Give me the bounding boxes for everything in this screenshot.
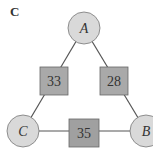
weight-box-c-b: 35 bbox=[69, 119, 99, 147]
weight-box-a-c: 33 bbox=[40, 67, 68, 95]
weight-label: 35 bbox=[77, 126, 91, 141]
node-label: C bbox=[18, 124, 28, 139]
weight-label: 33 bbox=[47, 74, 61, 89]
node-label: B bbox=[142, 124, 151, 139]
weight-box-a-b: 28 bbox=[100, 67, 128, 95]
node-b: B bbox=[130, 115, 153, 147]
weight-label: 28 bbox=[107, 74, 121, 89]
triangle-graph: 33 28 35 A C B bbox=[0, 0, 153, 151]
node-a: A bbox=[68, 12, 100, 44]
node-c: C bbox=[7, 115, 39, 147]
node-label: A bbox=[79, 21, 89, 36]
